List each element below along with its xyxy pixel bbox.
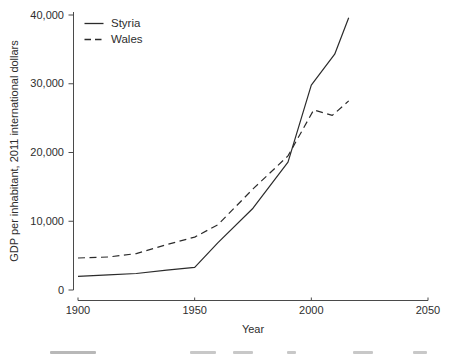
x-axis-tick-label: 1900 — [66, 304, 90, 316]
caption-smudge — [233, 351, 253, 354]
caption-smudge — [353, 351, 373, 354]
caption-smudge — [190, 351, 216, 354]
x-axis-title: Year — [78, 323, 428, 335]
x-axis-tick-label: 1950 — [182, 304, 206, 316]
series-line-styria — [78, 18, 349, 277]
x-axis-tick-label: 2000 — [299, 304, 323, 316]
caption-smudge — [413, 351, 427, 354]
caption-smudge — [50, 351, 96, 354]
legend-item-styria: Styria — [84, 17, 143, 30]
x-axis-tick-label: 2050 — [416, 304, 440, 316]
y-axis-tick-label: 0 — [58, 284, 64, 296]
chart-svg: 010,00020,00030,00040,000190019502000205… — [0, 0, 450, 355]
y-axis-tick-label: 40,000 — [30, 9, 64, 21]
y-axis-tick-label: 20,000 — [30, 146, 64, 158]
y-axis-tick-label: 10,000 — [30, 215, 64, 227]
legend-label: Styria — [111, 17, 140, 30]
series-line-wales — [78, 101, 349, 258]
clipped-caption-fragment — [0, 350, 450, 355]
y-axis-tick-label: 30,000 — [30, 77, 64, 89]
y-axis-title: GDP per inhabitant, 2011 international d… — [8, 40, 20, 262]
legend-item-wales: Wales — [84, 33, 143, 46]
legend-line-sample-solid — [84, 21, 104, 26]
figure: 010,00020,00030,00040,000190019502000205… — [0, 0, 450, 355]
legend-line-sample-dashed — [84, 37, 104, 42]
legend: StyriaWales — [84, 17, 143, 46]
legend-label: Wales — [111, 33, 143, 46]
caption-smudge — [287, 351, 296, 354]
